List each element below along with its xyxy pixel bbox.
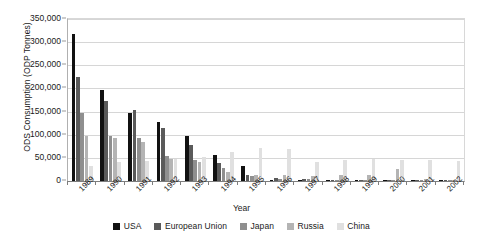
bar — [137, 138, 141, 181]
y-axis-tick-labels: 350,000300,000250,000200,000150,000100,0… — [18, 14, 66, 182]
x-axis-tick-mark — [180, 181, 181, 185]
y-axis-tick-mark — [62, 87, 66, 88]
legend-swatch-icon — [337, 223, 344, 230]
bar — [104, 101, 108, 181]
legend-swatch-icon — [287, 223, 294, 230]
x-axis-tick-mark — [378, 181, 379, 185]
bar — [157, 122, 161, 181]
legend-swatch-icon — [154, 223, 161, 230]
legend-label: USA — [124, 221, 142, 231]
bar — [76, 77, 80, 181]
bar-group — [351, 19, 379, 181]
x-axis-tick-mark — [95, 181, 96, 185]
x-axis-tick-mark — [265, 181, 266, 185]
bar-groups — [68, 19, 464, 181]
legend-label: Russia — [297, 221, 323, 231]
bar — [222, 168, 226, 181]
x-axis-tick-mark — [67, 181, 68, 185]
y-axis-tick-label: 350,000 — [30, 13, 61, 23]
bar — [217, 163, 221, 181]
bar-group — [181, 19, 209, 181]
legend-label: European Union — [165, 221, 227, 231]
bar — [241, 166, 245, 181]
x-axis-tick-mark — [124, 181, 125, 185]
x-axis-title: Year — [0, 203, 483, 213]
legend-swatch-icon — [240, 223, 247, 230]
bar-group — [125, 19, 153, 181]
bar-group — [266, 19, 294, 181]
y-axis-tick-label: 100,000 — [30, 129, 61, 139]
bar — [213, 155, 217, 181]
bar — [128, 113, 132, 182]
y-axis-tick-label: 250,000 — [30, 59, 61, 69]
bar-group — [407, 19, 435, 181]
bar — [193, 160, 197, 181]
x-axis-tick-mark — [293, 181, 294, 185]
y-axis-tick-mark — [62, 64, 66, 65]
bar-group — [379, 19, 407, 181]
y-axis-tick-mark — [62, 41, 66, 42]
y-axis-tick-mark — [62, 18, 66, 19]
legend-item[interactable]: China — [337, 221, 370, 231]
x-axis-tick-mark — [208, 181, 209, 185]
plot-area — [67, 18, 465, 182]
bar-group — [294, 19, 322, 181]
y-axis-tick-mark — [62, 156, 66, 157]
legend-item[interactable]: European Union — [154, 221, 227, 231]
bar — [189, 145, 193, 181]
bar — [161, 128, 165, 181]
bar — [100, 90, 104, 181]
bar — [165, 156, 169, 181]
bar — [72, 34, 76, 181]
bar — [133, 110, 137, 181]
legend-item[interactable]: Russia — [287, 221, 324, 231]
bar — [80, 113, 84, 181]
legend-item[interactable]: USA — [113, 221, 141, 231]
legend-swatch-icon — [113, 223, 120, 230]
bar — [85, 136, 89, 181]
x-axis-tick-mark — [463, 181, 464, 185]
bar-group — [96, 19, 124, 181]
legend-label: China — [347, 221, 369, 231]
x-axis-tick-mark — [406, 181, 407, 185]
legend-label: Japan — [251, 221, 274, 231]
bar-group — [323, 19, 351, 181]
x-axis-tick-labels: 1989199019911992199319941995199619971998… — [67, 181, 464, 221]
ods-consumption-bar-chart: ODS Consumption (ODP Tonnes) 350,000300,… — [0, 0, 483, 247]
bar-group — [238, 19, 266, 181]
y-axis-tick-mark — [62, 110, 66, 111]
legend-item[interactable]: Japan — [240, 221, 274, 231]
y-axis-tick-mark — [62, 133, 66, 134]
y-axis-tick-mark — [62, 180, 66, 181]
y-axis-tick-label: 150,000 — [30, 106, 61, 116]
bar-group — [153, 19, 181, 181]
bar-group — [436, 19, 464, 181]
y-axis-tick-label: 300,000 — [30, 36, 61, 46]
y-axis-tick-label: 50,000 — [35, 152, 61, 162]
y-axis-tick-label: 0 — [56, 175, 61, 185]
bar-group — [209, 19, 237, 181]
bar — [109, 136, 113, 181]
bar — [185, 136, 189, 181]
bar-group — [68, 19, 96, 181]
chart-legend: USAEuropean UnionJapanRussiaChina — [0, 221, 483, 231]
x-axis-tick-mark — [322, 181, 323, 185]
y-axis-tick-label: 200,000 — [30, 82, 61, 92]
